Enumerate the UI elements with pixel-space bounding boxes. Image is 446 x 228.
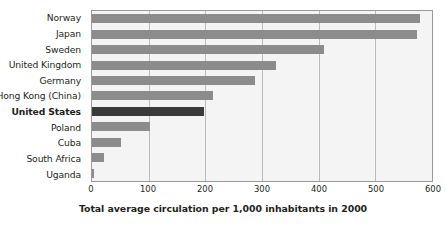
x-tick-label: 0 (88, 184, 93, 194)
bar-row (92, 73, 432, 88)
value-axis: 0100200300400500600 (91, 184, 433, 198)
category-label: Norway (0, 10, 86, 26)
category-label: United States (0, 104, 86, 120)
chart-title: Total average circulation per 1,000 inha… (0, 203, 446, 214)
gridline (432, 11, 433, 181)
x-tick-label: 600 (425, 184, 441, 194)
plot-area (91, 10, 433, 182)
category-label: Hong Kong (China) (0, 88, 86, 104)
bar (92, 61, 276, 70)
bar (92, 91, 213, 100)
bar-row (92, 150, 432, 165)
category-label: South Africa (0, 151, 86, 167)
bar-row (92, 88, 432, 103)
category-axis: NorwayJapanSwedenUnited KingdomGermanyHo… (0, 10, 86, 182)
bar-row (92, 57, 432, 72)
bar-row (92, 42, 432, 57)
category-label: Sweden (0, 41, 86, 57)
x-tick-label: 200 (197, 184, 213, 194)
bar (92, 30, 417, 39)
bar-row (92, 26, 432, 41)
bar (92, 76, 255, 85)
bar-row (92, 11, 432, 26)
bar (92, 14, 420, 23)
bar (92, 122, 150, 131)
bar-row (92, 119, 432, 134)
x-tick-label: 300 (254, 184, 270, 194)
bar-row (92, 104, 432, 119)
bar (92, 45, 324, 54)
x-tick-label: 100 (140, 184, 156, 194)
bar (92, 169, 94, 178)
bar (92, 107, 204, 116)
category-label: Uganda (0, 166, 86, 182)
category-label: Japan (0, 26, 86, 42)
bar-row (92, 166, 432, 181)
bar-row (92, 135, 432, 150)
category-label: Poland (0, 119, 86, 135)
category-label: Cuba (0, 135, 86, 151)
category-label: Germany (0, 73, 86, 89)
bar (92, 138, 121, 147)
bar-chart: NorwayJapanSwedenUnited KingdomGermanyHo… (0, 0, 446, 228)
bar-series (92, 11, 432, 181)
x-tick-label: 400 (311, 184, 327, 194)
bar (92, 153, 104, 162)
x-tick-label: 500 (368, 184, 384, 194)
category-label: United Kingdom (0, 57, 86, 73)
